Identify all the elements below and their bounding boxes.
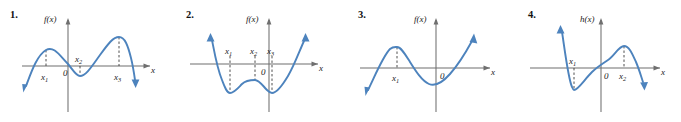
curve-arrowhead-left — [207, 33, 215, 42]
graph-plot-3: f(x) x 0 x1 — [338, 0, 508, 122]
figure-sheet: 1. f(x) x 0 x1 x2 x3 — [0, 0, 681, 122]
x-axis-label: x — [318, 63, 323, 73]
curve-arrowhead-right — [132, 80, 140, 88]
x-axis-arrowhead — [484, 66, 491, 71]
y-axis-arrowhead — [267, 18, 272, 25]
graph-panel-3: 3. f(x) x 0 x1 — [338, 0, 508, 122]
graph-panel-1: 1. f(x) x 0 x1 x2 x3 — [0, 0, 170, 122]
x-axis-label: x — [490, 67, 495, 77]
y-axis-arrowhead — [434, 18, 439, 25]
critical-label-x1: x1 — [40, 72, 48, 83]
critical-label-x2: x2 — [74, 54, 83, 65]
function-label: f(x) — [246, 14, 259, 24]
curve-arrowhead-left — [365, 87, 371, 96]
curve-arrowhead-right — [640, 82, 648, 91]
x-axis-arrowhead — [654, 66, 661, 71]
x-axis-arrowhead — [144, 64, 151, 69]
y-axis-arrowhead — [599, 18, 604, 25]
function-label: f(x) — [414, 14, 427, 24]
critical-label-x3: x3 — [266, 46, 274, 57]
critical-label-x3: x3 — [113, 72, 121, 83]
critical-label-x1: x1 — [391, 73, 399, 84]
function-label: h(x) — [580, 14, 595, 24]
graph-plot-1: f(x) x 0 x1 x2 x3 — [0, 0, 170, 122]
x-axis-arrowhead — [312, 62, 319, 67]
critical-label-x2: x2 — [618, 71, 627, 82]
x-axis-label: x — [660, 67, 665, 77]
critical-label-x1: x1 — [224, 46, 232, 57]
y-axis-arrowhead — [66, 18, 71, 25]
graph-panel-2: 2. f(x) x 0 x1 x2 x3 — [168, 0, 338, 122]
function-curve — [368, 41, 472, 90]
origin-label: 0 — [63, 68, 68, 78]
origin-label: 0 — [440, 71, 445, 81]
graph-plot-4: h(x) x 0 x1 x2 — [508, 0, 678, 122]
curve-arrowhead-left — [22, 84, 27, 93]
critical-label-x2: x2 — [249, 46, 258, 57]
origin-label: 0 — [261, 67, 266, 77]
graph-panel-4: 4. h(x) x 0 x1 x2 — [508, 0, 678, 122]
curve-arrowhead-left — [557, 25, 565, 34]
graph-plot-2: f(x) x 0 x1 x2 x3 — [168, 0, 338, 122]
x-axis-label: x — [150, 65, 155, 75]
critical-label-x1: x1 — [568, 56, 576, 67]
curve-arrowhead-right — [470, 34, 478, 44]
curve-arrowhead-right — [302, 33, 310, 42]
origin-label: 0 — [604, 71, 609, 81]
function-label: f(x) — [44, 14, 57, 24]
